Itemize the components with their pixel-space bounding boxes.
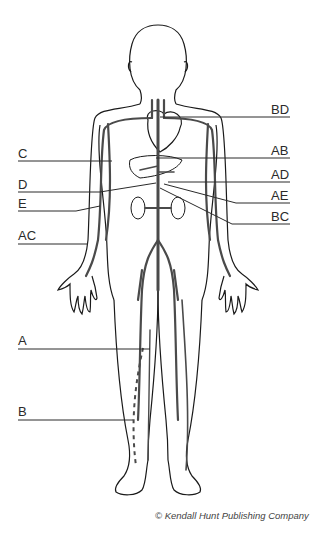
- label-D: D: [18, 178, 27, 191]
- label-BC: BC: [271, 210, 289, 223]
- copyright-credit: © Kendall Hunt Publishing Company: [155, 510, 309, 521]
- label-BD: BD: [271, 103, 289, 116]
- label-AB: AB: [271, 144, 288, 157]
- label-AE: AE: [271, 189, 288, 202]
- vessels: [86, 100, 230, 470]
- label-AC: AC: [18, 229, 36, 242]
- left-kidney: [131, 197, 145, 219]
- label-AD: AD: [271, 168, 289, 181]
- label-C: C: [18, 147, 27, 160]
- label-E: E: [18, 197, 27, 210]
- label-A: A: [18, 334, 27, 347]
- right-kidney: [171, 197, 185, 219]
- label-B: B: [18, 405, 27, 418]
- anatomy-diagram: [0, 0, 313, 538]
